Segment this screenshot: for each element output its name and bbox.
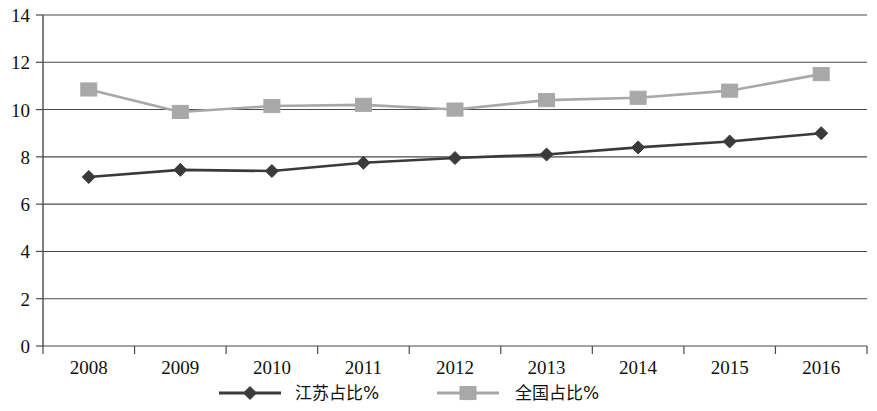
data-point-marker — [174, 163, 187, 176]
x-tick-label: 2015 — [711, 357, 749, 378]
y-tick-label: 4 — [21, 241, 31, 262]
x-tick-label: 2013 — [528, 357, 566, 378]
x-axis-labels: 200820092010201120122013201420152016 — [70, 357, 840, 378]
data-series — [81, 68, 829, 184]
data-point-marker — [539, 94, 555, 107]
data-point-marker — [447, 103, 463, 116]
x-tick-label: 2009 — [161, 357, 199, 378]
y-tick-label: 0 — [21, 336, 31, 357]
data-point-marker — [82, 170, 95, 183]
line-chart: 02468101214 2008200920102011201220132014… — [0, 0, 877, 411]
legend-item[interactable]: 江苏占比% — [219, 383, 379, 403]
data-point-marker — [449, 152, 462, 165]
data-point-marker — [723, 135, 736, 148]
data-point-marker — [460, 386, 476, 399]
y-tick-label: 14 — [11, 5, 31, 26]
y-axis-labels: 02468101214 — [11, 5, 31, 357]
x-tick-label: 2011 — [345, 357, 382, 378]
data-point-marker — [265, 165, 278, 178]
data-point-marker — [813, 68, 829, 81]
y-tick-label: 12 — [11, 52, 30, 73]
legend-label: 江苏占比% — [295, 383, 379, 403]
y-tick-label: 6 — [21, 194, 31, 215]
legend-item[interactable]: 全国占比% — [437, 383, 599, 403]
chart-legend: 江苏占比%全国占比% — [219, 383, 599, 403]
x-tick-label: 2012 — [436, 357, 474, 378]
x-tick-label: 2014 — [619, 357, 658, 378]
x-axis-ticks — [43, 346, 867, 354]
legend-label: 全国占比% — [515, 383, 599, 403]
x-tick-label: 2016 — [802, 357, 840, 378]
data-point-marker — [264, 99, 280, 112]
data-point-marker — [355, 98, 371, 111]
data-point-marker — [722, 84, 738, 97]
data-point-marker — [630, 91, 646, 104]
chart-canvas: 02468101214 2008200920102011201220132014… — [0, 0, 877, 411]
gridlines — [43, 15, 867, 346]
y-axis-ticks — [36, 15, 43, 346]
series-secondary — [81, 68, 829, 119]
data-point-marker — [357, 156, 370, 169]
data-point-marker — [540, 148, 553, 161]
y-tick-label: 10 — [11, 100, 30, 121]
data-point-marker — [172, 105, 188, 118]
x-tick-label: 2010 — [253, 357, 291, 378]
data-point-marker — [815, 127, 828, 140]
data-point-marker — [632, 141, 645, 154]
data-point-marker — [244, 387, 257, 400]
x-tick-label: 2008 — [70, 357, 108, 378]
data-point-marker — [81, 83, 97, 96]
series-primary — [82, 127, 827, 184]
y-tick-label: 8 — [21, 147, 31, 168]
y-tick-label: 2 — [21, 289, 31, 310]
